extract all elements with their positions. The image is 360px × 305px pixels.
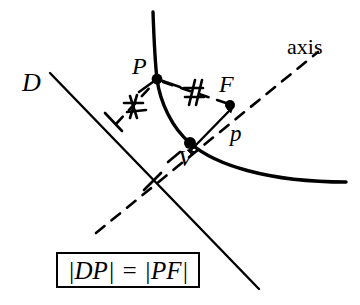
label-vertex-v: V [178, 146, 193, 170]
tick-mark-dp [124, 95, 146, 118]
equation-box: |DP| = |PF| [56, 252, 200, 288]
parabola-figure: D P F V p axis |DP| = |PF| [0, 0, 360, 305]
label-directrix-d: D [22, 70, 41, 96]
label-focus-f: F [219, 72, 234, 96]
point-f-dot [225, 100, 235, 110]
label-axis: axis [287, 36, 322, 58]
label-point-p: P [132, 54, 147, 78]
tick-mark-pf [184, 80, 204, 105]
point-p-dot [152, 74, 163, 85]
equation-text: |DP| = |PF| [68, 258, 189, 283]
axis-dashed-line [96, 52, 318, 233]
label-focal-distance-p: p [230, 122, 242, 145]
